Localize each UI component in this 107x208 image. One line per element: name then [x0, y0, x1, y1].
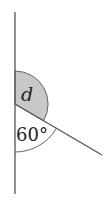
angle-diagram: d 60°: [0, 0, 107, 208]
angle-60-label: 60°: [16, 124, 48, 145]
angle-d-label: d: [21, 83, 33, 105]
